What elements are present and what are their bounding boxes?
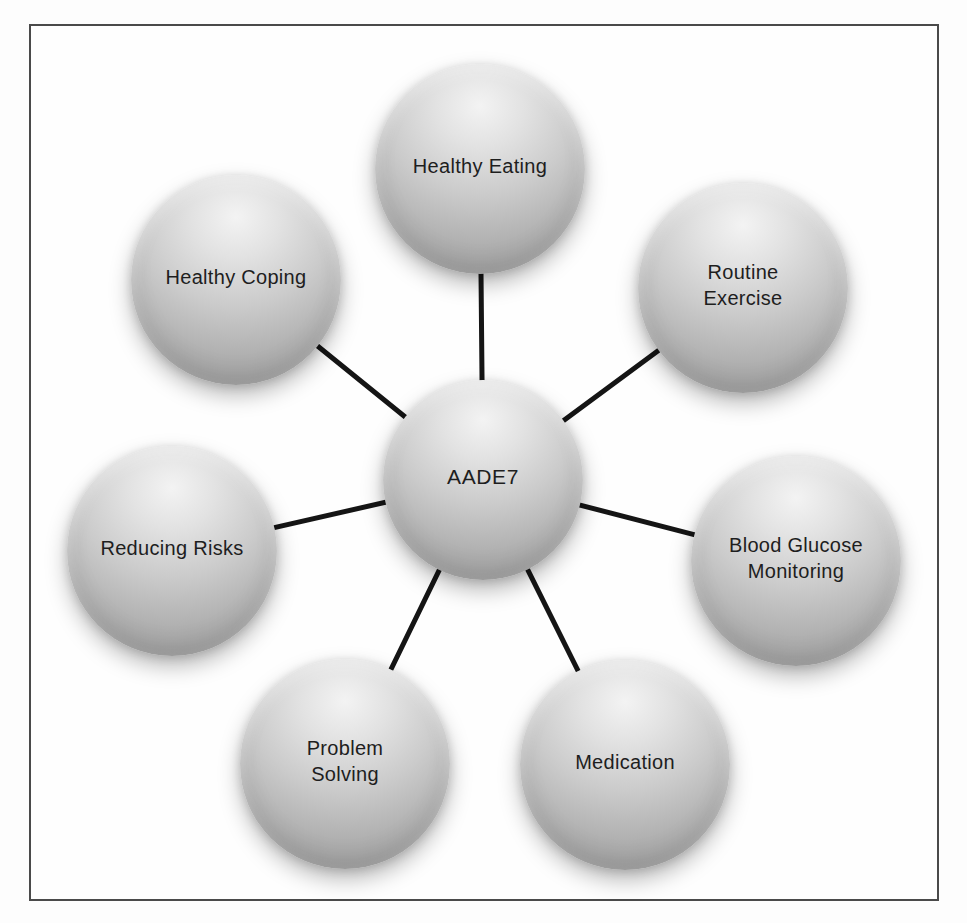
spoke-node-reducing-risks: Reducing Risks — [67, 446, 277, 656]
spoke-label-healthy-eating: Healthy Eating — [413, 153, 547, 185]
spoke-node-routine-exercise: Routine Exercise — [638, 183, 848, 393]
spoke-label-routine-exercise: Routine Exercise — [703, 259, 782, 318]
hub-label: AADE7 — [447, 463, 519, 497]
spoke-label-reducing-risks: Reducing Risks — [100, 535, 243, 567]
figure-canvas: AADE7 Healthy Eating Routine Exercise Bl… — [0, 0, 967, 923]
spoke-node-healthy-coping: Healthy Coping — [131, 175, 341, 385]
spoke-node-healthy-eating: Healthy Eating — [375, 64, 585, 274]
hub-node-aade7: AADE7 — [383, 380, 583, 580]
spoke-label-blood-glucose-monitoring: Blood Glucose Monitoring — [729, 532, 863, 591]
spoke-node-problem-solving: Problem Solving — [240, 659, 450, 869]
spoke-label-medication: Medication — [575, 749, 675, 781]
spoke-label-problem-solving: Problem Solving — [307, 735, 384, 794]
spoke-node-blood-glucose-monitoring: Blood Glucose Monitoring — [691, 456, 901, 666]
spoke-label-healthy-coping: Healthy Coping — [166, 264, 307, 296]
spoke-node-medication: Medication — [520, 660, 730, 870]
